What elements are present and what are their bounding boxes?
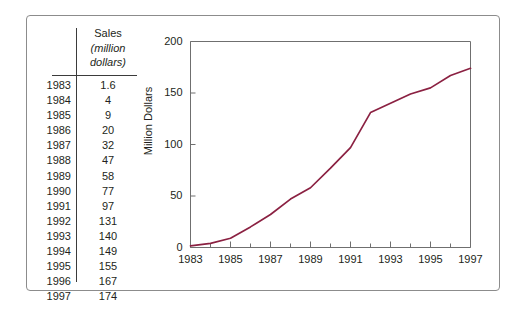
- sales-data-line: [191, 68, 471, 246]
- table-cell-year: 1984: [26, 93, 71, 108]
- x-tick-label: 1983: [169, 254, 213, 265]
- table-cell-year: 1989: [26, 169, 71, 184]
- x-tick-label: 1989: [289, 254, 333, 265]
- sales-line-chart: Million Dollars 050100150200 19831985198…: [124, 15, 500, 291]
- x-tick-label: 1997: [449, 254, 493, 265]
- table-cell-year: 1985: [26, 108, 71, 123]
- x-tick-label: 1995: [409, 254, 453, 265]
- table-cell-year: 1987: [26, 138, 71, 153]
- table-cell-year: 1994: [26, 244, 71, 259]
- table-cell-year: 1992: [26, 214, 71, 229]
- table-cell-year: 1995: [26, 259, 71, 274]
- x-tick-label: 1987: [249, 254, 293, 265]
- table-cell-year: 1990: [26, 184, 71, 199]
- y-axis-tick-marks: [191, 42, 196, 248]
- table-cell-year: 1983: [26, 78, 71, 93]
- x-tick-label: 1993: [369, 254, 413, 265]
- table-cell-sales: 174: [80, 289, 136, 304]
- y-tick-label: 100: [147, 139, 183, 150]
- table-cell-year: 1986: [26, 123, 71, 138]
- y-tick-label: 50: [147, 190, 183, 201]
- table-cell-year: 1996: [26, 274, 71, 289]
- y-tick-label: 0: [147, 242, 183, 253]
- axis-frame-rect: [191, 42, 471, 248]
- table-row: 1997174: [26, 289, 144, 304]
- x-axis-tick-marks: [191, 242, 471, 248]
- plot-axes: [191, 42, 471, 248]
- y-tick-label: 200: [147, 36, 183, 47]
- x-tick-label: 1991: [329, 254, 373, 265]
- table-cell-year: 1993: [26, 229, 71, 244]
- table-cell-year: 1997: [26, 289, 71, 304]
- table-cell-year: 1988: [26, 153, 71, 168]
- y-tick-label: 150: [147, 87, 183, 98]
- x-tick-label: 1985: [209, 254, 253, 265]
- table-cell-year: 1991: [26, 199, 71, 214]
